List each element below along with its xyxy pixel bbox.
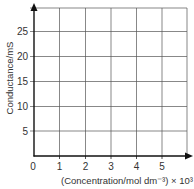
- y-tick-10: 10: [17, 101, 29, 112]
- x-tick-5: 5: [159, 161, 165, 172]
- x-axis-label: (Concentration/mol dm⁻³) × 10³: [61, 175, 193, 186]
- conductance-chart: 25 20 15 10 5 0 1 2 3 4 5 Conductance/mS…: [0, 0, 194, 189]
- x-tick-3: 3: [108, 161, 114, 172]
- grid-vertical: [60, 8, 188, 156]
- y-axis-arrow-icon: [31, 3, 38, 11]
- y-axis-label: Conductance/mS: [4, 42, 15, 115]
- y-tick-20: 20: [17, 51, 29, 62]
- x-tick-2: 2: [83, 161, 89, 172]
- y-tick-25: 25: [17, 26, 29, 37]
- y-tick-5: 5: [22, 126, 28, 137]
- x-tick-4: 4: [134, 161, 140, 172]
- grid-horizontal: [30, 8, 187, 131]
- y-tick-15: 15: [17, 76, 29, 87]
- x-tick-0: 0: [30, 161, 36, 172]
- x-axis-arrow-icon: [185, 153, 193, 160]
- x-tick-1: 1: [57, 161, 63, 172]
